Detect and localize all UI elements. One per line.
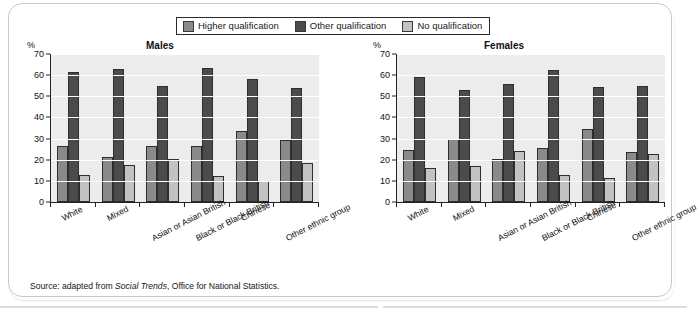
gridline-females-10 [397,181,665,182]
legend-swatch-higher [183,21,194,32]
bar-males-0-higher [57,146,68,202]
gridline-females-40 [397,117,665,118]
bar-males-5-higher [280,140,291,202]
x-axis-label-females-5: Other ethnic group [630,202,698,243]
x-ticks-females [396,202,664,207]
gridline-females-70 [397,54,665,55]
x-tick-mark-males-4 [229,202,230,207]
panel-title-males: Males [146,40,174,51]
x-tick-mark-males-0 [50,202,51,207]
y-tick-label-females-70: 70 [380,49,390,59]
bar-groups-males [51,54,319,202]
x-tick-mark-females-3 [530,202,531,207]
bar-group-males-3 [185,54,230,202]
bottom-rule-left [0,306,378,308]
bar-group-females-1 [442,54,487,202]
gridline-males-70 [51,54,319,55]
source-prefix: Source: adapted from [30,281,115,291]
gridline-females-50 [397,96,665,97]
x-tick-mark-males-5 [273,202,274,207]
x-ticks-males [50,202,318,207]
legend-item-higher: Higher qualification [183,20,279,32]
gridline-females-60 [397,75,665,76]
bar-males-3-other [202,68,213,202]
y-tick-label-females-60: 60 [380,70,390,80]
bar-group-males-4 [230,54,275,202]
bar-females-1-higher [448,139,459,202]
bar-females-3-other [548,70,559,202]
bar-males-1-other [113,69,124,202]
bar-males-1-none [124,165,135,202]
bar-females-0-none [425,168,436,202]
bar-group-females-3 [531,54,576,202]
legend-swatch-none [402,21,413,32]
legend-label-higher: Higher qualification [198,20,279,32]
y-axis-females: 706050403020100 [368,54,396,210]
x-tick-mark-males-2 [139,202,140,207]
bar-group-males-0 [51,54,96,202]
plot-area-females [396,54,665,203]
bar-females-0-higher [403,150,414,202]
bar-males-2-other [157,86,168,202]
x-tick-mark-females-6 [664,202,665,207]
y-tick-label-males-40: 40 [34,112,44,122]
bar-males-0-none [79,175,90,202]
source-suffix: , Office for National Statistics. [167,281,280,291]
bar-females-4-higher [582,129,593,202]
y-tick-label-females-30: 30 [380,134,390,144]
gridline-males-20 [51,160,319,161]
bar-males-4-other [247,79,258,202]
y-tick-label-males-0: 0 [39,197,44,207]
y-tick-label-males-60: 60 [34,70,44,80]
chart-legend: Higher qualificationOther qualificationN… [176,17,490,35]
x-tick-mark-females-2 [485,202,486,207]
bar-males-0-other [68,72,79,202]
bar-males-1-higher [102,157,113,202]
bar-group-males-2 [140,54,185,202]
bar-females-1-none [470,166,481,202]
bar-females-5-none [648,154,659,202]
bar-females-2-other [503,84,514,202]
y-tick-label-males-10: 10 [34,176,44,186]
bar-males-3-higher [191,146,202,202]
bar-group-females-0 [397,54,442,202]
gridline-males-40 [51,117,319,118]
gridline-males-60 [51,75,319,76]
x-axis-labels-females: WhiteMixedAsian or Asian BritishBlack or… [396,208,686,288]
y-tick-label-males-70: 70 [34,49,44,59]
gridline-males-30 [51,139,319,140]
y-tick-label-females-40: 40 [380,112,390,122]
y-tick-label-males-20: 20 [34,155,44,165]
x-tick-mark-females-5 [619,202,620,207]
bar-males-2-higher [146,146,157,202]
bar-males-5-none [302,163,313,202]
bar-females-2-none [514,151,525,202]
bar-group-females-2 [486,54,531,202]
x-tick-mark-males-1 [95,202,96,207]
bar-females-3-higher [537,148,548,202]
bar-females-1-other [459,90,470,202]
x-tick-mark-males-6 [318,202,319,207]
bar-females-4-other [593,87,604,202]
gridline-females-20 [397,160,665,161]
x-axis-label-males-5: Other ethnic group [284,202,352,243]
x-tick-mark-females-4 [575,202,576,207]
bar-males-5-other [291,88,302,202]
gridline-males-50 [51,96,319,97]
y-tick-label-males-30: 30 [34,134,44,144]
bar-groups-females [397,54,665,202]
legend-label-none: No qualification [417,20,482,32]
bar-females-5-other [637,86,648,202]
gridline-males-10 [51,181,319,182]
y-tick-label-females-50: 50 [380,91,390,101]
y-tick-label-females-0: 0 [385,197,390,207]
chart-panel-males: % Males 706050403020100 WhiteMixedAsian … [22,40,342,280]
bar-group-females-4 [576,54,621,202]
x-tick-mark-males-3 [184,202,185,207]
y-tick-label-females-20: 20 [380,155,390,165]
bottom-rule-right [383,306,687,308]
bar-group-males-1 [96,54,141,202]
y-tick-label-males-50: 50 [34,91,44,101]
y-axis-males: 706050403020100 [22,54,50,210]
